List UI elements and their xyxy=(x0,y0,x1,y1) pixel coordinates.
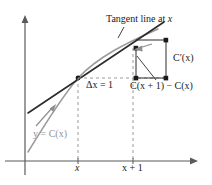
x-plus-1-tick-label: x + 1 xyxy=(122,163,143,173)
difference-leader-line xyxy=(137,56,156,80)
tangent-line-label: Tangent line at x xyxy=(106,14,172,24)
derivative-bracket-group xyxy=(136,38,168,81)
derivative-label: C′(x) xyxy=(173,53,194,63)
cost-curve-label: y = C(x) xyxy=(33,129,67,139)
tangent-label-leader xyxy=(118,27,124,38)
difference-label: C(x + 1) − C(x) xyxy=(130,81,193,91)
x-axis-arrowhead xyxy=(190,158,198,165)
marginal-cost-diagram: Tangent line at x Δx = 1 C′(x) C(x + 1) … xyxy=(0,0,212,185)
diagram-canvas xyxy=(0,0,212,185)
tangent-line xyxy=(28,22,164,113)
dashed-guides xyxy=(78,48,166,161)
delta-x-label: Δx = 1 xyxy=(86,80,113,90)
x-tick-label: x xyxy=(75,163,79,173)
axes-group xyxy=(5,15,198,175)
bracket-top-cap xyxy=(164,38,169,43)
difference-segment-group xyxy=(134,46,156,81)
y-axis-arrowhead xyxy=(22,15,29,23)
tangent-line-label-variable: x xyxy=(168,13,172,24)
tangent-line-label-text: Tangent line at xyxy=(106,13,168,24)
tangent-label-leader-group xyxy=(118,27,124,38)
